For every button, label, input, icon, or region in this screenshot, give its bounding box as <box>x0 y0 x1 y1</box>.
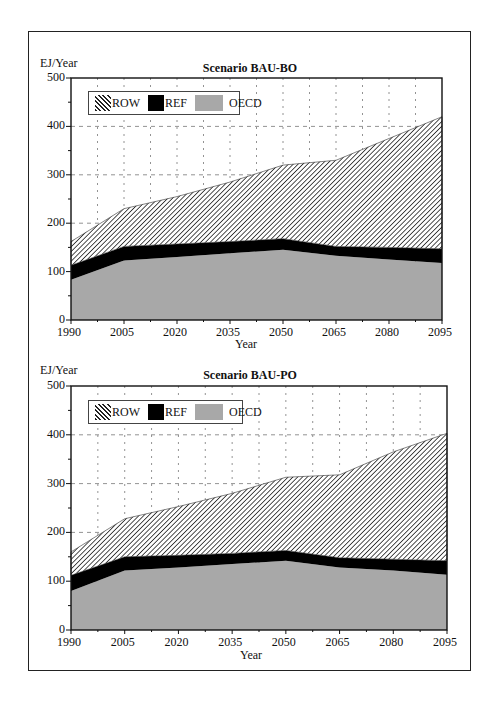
plot-area <box>0 0 494 709</box>
y-tick-label: 300 <box>47 476 65 491</box>
area-oecd <box>71 561 447 630</box>
x-tick-label: 2050 <box>272 635 296 650</box>
chart-bau-po: EJ/Year Scenario BAU-PO ROW REF OECD Yea… <box>0 0 494 709</box>
x-tick-label: 2065 <box>326 635 350 650</box>
legend: ROW REF OECD <box>88 400 243 424</box>
x-tick-label: 2020 <box>164 635 188 650</box>
gray-swatch-icon <box>195 404 223 420</box>
x-tick-label: 2005 <box>111 635 135 650</box>
y-tick-label: 200 <box>47 524 65 539</box>
legend-item-row: ROW <box>95 404 140 420</box>
y-tick-label: 400 <box>47 427 65 442</box>
x-tick-label: 2035 <box>218 635 242 650</box>
y-tick-label: 500 <box>47 378 65 393</box>
black-swatch-icon <box>148 404 164 420</box>
legend-item-ref: REF <box>148 404 187 420</box>
hatch-swatch-icon <box>95 404 111 420</box>
y-tick-label: 100 <box>47 573 65 588</box>
legend-item-oecd: OECD <box>195 404 262 420</box>
x-axis-label: Year <box>231 648 271 663</box>
x-tick-label: 2095 <box>433 635 457 650</box>
x-tick-label: 2080 <box>379 635 403 650</box>
x-tick-label: 1990 <box>57 635 81 650</box>
